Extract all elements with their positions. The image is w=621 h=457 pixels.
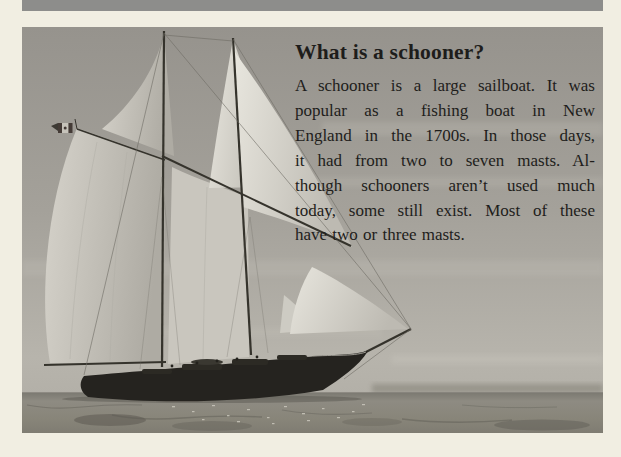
sea xyxy=(22,393,603,433)
body-line: today, some still exist. Most of these xyxy=(295,199,595,224)
article-title: What is a schooner? xyxy=(295,39,595,65)
body-line: have two or three masts. xyxy=(295,223,595,248)
article: What is a schooner? A schooner is a larg… xyxy=(295,39,595,248)
body-line: popular as a fishing boat in New xyxy=(295,99,595,124)
main-staysail xyxy=(168,167,249,364)
body-line: England in the 1700s. In those days, xyxy=(295,124,595,149)
body-line: A schooner is a large sailboat. It was xyxy=(295,74,595,99)
top-rule-bar xyxy=(22,0,603,11)
book-page: What is a schooner? A schooner is a larg… xyxy=(0,0,621,457)
schooner-photo: What is a schooner? A schooner is a larg… xyxy=(22,27,603,433)
body-line: it had from two to seven masts. Al- xyxy=(295,149,595,174)
body-line: though schooners aren’t used much xyxy=(295,174,595,199)
article-body: A schooner is a large sailboat. It was p… xyxy=(295,74,595,248)
